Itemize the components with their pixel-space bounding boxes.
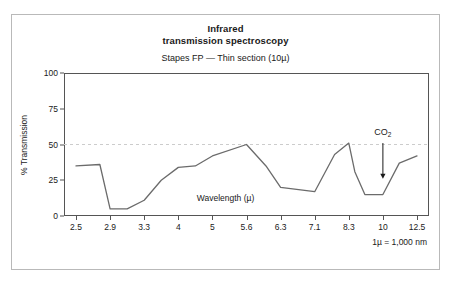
y-tick-label: 50 <box>49 140 58 150</box>
figure-border: Infrared transmission spectroscopy Stape… <box>11 14 440 270</box>
y-tick-label: 0 <box>53 211 58 221</box>
x-tick-mark <box>144 216 145 220</box>
x-axis-title: Wavelength (µ) <box>12 193 439 203</box>
chart-title-line-1: Infrared <box>12 23 439 35</box>
x-tick-label: 4 <box>176 222 181 232</box>
x-tick-mark <box>212 216 213 220</box>
co2-arrow-head <box>380 174 385 179</box>
x-tick-label: 10 <box>378 222 387 232</box>
co2-annotation-text: CO <box>374 127 388 137</box>
co2-annotation-subscript: 2 <box>388 131 392 138</box>
x-tick-mark <box>417 216 418 220</box>
x-tick-label: 2.9 <box>104 222 116 232</box>
x-tick-label: 8.3 <box>343 222 355 232</box>
x-tick-mark <box>247 216 248 220</box>
x-tick-label: 7.1 <box>309 222 321 232</box>
co2-annotation-label: CO2 <box>374 127 391 137</box>
y-tick-label: 25 <box>49 175 58 185</box>
y-axis-title: % Transmission <box>19 115 29 175</box>
y-tick-label: 75 <box>49 104 58 114</box>
x-tick-mark <box>315 216 316 220</box>
x-tick-label: 5.6 <box>241 222 253 232</box>
x-tick-mark <box>110 216 111 220</box>
x-tick-label: 2.5 <box>70 222 82 232</box>
x-tick-label: 12.5 <box>409 222 426 232</box>
x-tick-mark <box>178 216 179 220</box>
x-tick-mark <box>383 216 384 220</box>
x-tick-label: 3.3 <box>138 222 150 232</box>
chart-title: Infrared transmission spectroscopy <box>12 23 439 46</box>
x-tick-mark <box>349 216 350 220</box>
x-tick-label: 5 <box>210 222 215 232</box>
x-tick-mark <box>76 216 77 220</box>
x-tick-label: 6.3 <box>275 222 287 232</box>
x-tick-mark <box>281 216 282 220</box>
chart-subtitle: Stapes FP — Thin section (10µ) <box>12 53 439 63</box>
chart-title-line-2: transmission spectroscopy <box>12 35 439 47</box>
y-tick-label: 100 <box>44 68 58 78</box>
unit-note: 1µ = 1,000 nm <box>372 237 427 247</box>
